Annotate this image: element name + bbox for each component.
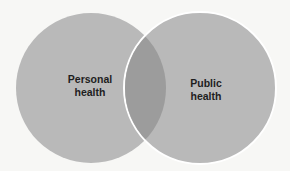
- public-label-line1: Public: [166, 77, 246, 90]
- venn-diagram: [0, 0, 290, 171]
- personal-health-label: Personal health: [50, 73, 130, 99]
- public-health-label: Public health: [166, 77, 246, 103]
- personal-label-line2: health: [50, 86, 130, 99]
- personal-label-line1: Personal: [50, 73, 130, 86]
- public-label-line2: health: [166, 90, 246, 103]
